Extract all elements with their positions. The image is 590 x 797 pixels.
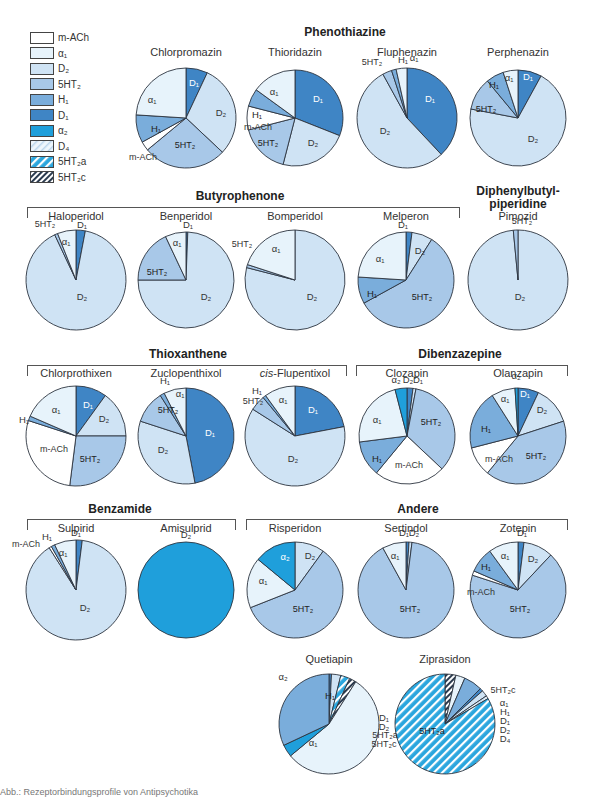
pie-sertindol (358, 542, 454, 638)
slice-label: D₁ (71, 527, 81, 538)
slice-label: m-ACh (244, 122, 272, 132)
slice-label: D₁ (520, 388, 530, 399)
slice-label: α₁ (173, 237, 182, 248)
slice-label: 5HT₂ (293, 604, 314, 614)
slice-label: D₂ (528, 133, 539, 144)
slice-label: D₁ (313, 93, 323, 104)
slice-label: m-ACh (12, 539, 40, 549)
slice-label: D₁ (523, 71, 533, 82)
slice-label: D₁ (183, 219, 193, 230)
slice-label: α₁ (373, 414, 382, 425)
pie-ziprasidon (395, 674, 495, 774)
slice-label: α₁ (376, 253, 385, 264)
pie-amisulprid (138, 542, 234, 638)
slice-label: α₁ (391, 550, 400, 561)
slice-label: α₂ (280, 551, 289, 562)
slice-label: D₁ (83, 399, 93, 410)
slice-label: α₂ (391, 374, 400, 385)
pie-perphenazin (470, 70, 566, 166)
slice-label: 5HT₂ (232, 239, 253, 249)
slice-label: D₂ (537, 404, 548, 415)
slice-label: H₁ (19, 414, 29, 425)
slice-a2 (138, 542, 234, 638)
slice-label: m-ACh (395, 460, 423, 470)
slice-label: α₁ (148, 94, 157, 105)
slice-label: 5HT₂ (512, 216, 533, 226)
slice-label: D₂ (80, 602, 91, 613)
slice-label: H₁ (42, 531, 52, 542)
slice-label: α₁ (501, 393, 510, 404)
slice-label: D₁ (398, 219, 408, 230)
slice-label: 5HT₂ (510, 604, 531, 614)
caption: Abb.: Rezeptorbindungsprofile von Antips… (0, 787, 590, 797)
pie-risperidon (247, 542, 343, 638)
pie-benperidol (138, 232, 234, 328)
slice-label: D₂ (515, 291, 526, 302)
slice-label: 5HT₂ (35, 219, 56, 229)
slice-label: 5HT₂ (80, 454, 101, 464)
pie-zuclopenthixol (138, 388, 234, 484)
slice-label: m-ACh (40, 444, 68, 454)
slice-label: α₁ (62, 236, 71, 247)
slice-label: α₁ (59, 547, 68, 558)
slice-label: 5HT₂c (372, 739, 397, 749)
pie-fluphenazin (357, 68, 457, 168)
slice-label: D₂ (308, 137, 319, 148)
slice-label: 5HT₂ (362, 57, 383, 67)
pie-quetiapin (279, 674, 379, 774)
slice-label: D₂ (415, 245, 426, 256)
slice-label: α₁ (52, 404, 61, 415)
slice-label: D₂ (216, 107, 227, 118)
slice-label: 5HT₂ (400, 604, 421, 614)
slice-label: D₂ (288, 453, 299, 464)
slice-label: 5HT₂ (421, 417, 442, 427)
slice-label: H₁ (489, 79, 499, 90)
slice-label: 5HT₂ (412, 292, 433, 302)
slice-label: 5HT₂ (158, 405, 179, 415)
slice-label: 5HT₂c (491, 685, 516, 695)
slice-label: D₄ (500, 733, 511, 744)
slice-label: 5HT₂ (476, 104, 497, 114)
pie-sulpirid (26, 540, 126, 640)
slice-label: 5HT₂ (258, 138, 279, 148)
slice-label: H₁ (325, 690, 335, 701)
slice-label: D₁ (413, 374, 423, 385)
slice-label: α₁ (272, 243, 281, 254)
slice-label: H₁ (151, 123, 161, 134)
slice-label: D₂ (307, 291, 318, 302)
pie-melperon (358, 232, 454, 328)
slice-label: m-ACh (485, 454, 513, 464)
slice-label: D₁ (517, 527, 527, 538)
slice-label: H₁ (481, 423, 491, 434)
slice-label: D₂ (181, 529, 192, 540)
slice-label: 5HT₂ (243, 396, 264, 406)
slice-label: α₁ (410, 52, 419, 63)
slice-label: D₁ (308, 404, 318, 415)
slice-label: H₁ (252, 385, 262, 396)
pie-chlorprothixen (26, 386, 126, 486)
slice-label: D₂ (380, 125, 391, 136)
pie-haloperidol (26, 230, 126, 330)
slice-label: m-ACh (129, 152, 157, 162)
slice-label: 5HT₂a (419, 726, 445, 736)
slice-label: D₂ (158, 444, 169, 455)
slice-label: α₁ (309, 737, 318, 748)
slice-label: D₂ (528, 553, 539, 564)
slice-label: H₁ (481, 561, 491, 572)
slice-label: 5HT₂ (147, 267, 168, 277)
slice-label: D₂ (201, 291, 212, 302)
slice-label: D₁ (205, 427, 215, 438)
slice-label: D₁ (77, 219, 87, 230)
slice-label: H₁ (252, 109, 262, 120)
slice-label: α₁ (176, 388, 185, 399)
slice-label: D₂ (99, 413, 110, 424)
slice-label: H₁ (160, 375, 170, 386)
slice-label: D₂ (409, 527, 420, 538)
slice-label: D₁ (425, 93, 435, 104)
slice-label: 5HT₂ (526, 451, 547, 461)
pie-pimozid (468, 230, 568, 330)
slice-label: D₁ (399, 527, 409, 538)
slice-label: 5HT₂ (175, 140, 196, 150)
slice-label: D₂ (77, 291, 88, 302)
